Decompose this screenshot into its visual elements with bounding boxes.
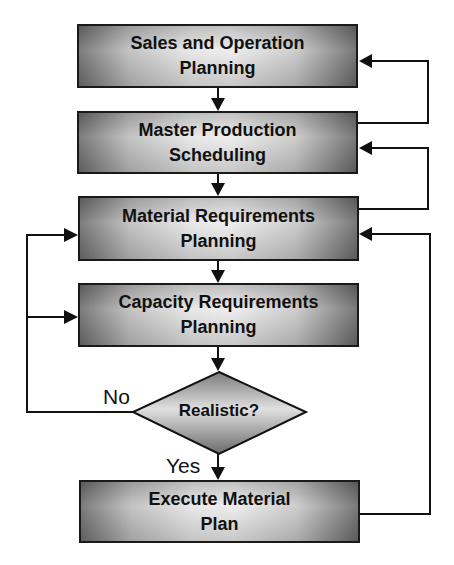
node-execute-material-plan: Execute Material Plan (79, 480, 360, 543)
edge-label-no: No (103, 385, 130, 409)
decision-label: Realistic? (163, 401, 275, 421)
node-label: Master Production Scheduling (138, 118, 296, 168)
node-label: Sales and Operation Planning (130, 31, 304, 81)
node-label: Capacity Requirements Planning (118, 290, 318, 340)
node-master-production-scheduling: Master Production Scheduling (77, 111, 358, 174)
node-label: Material Requirements Planning (122, 204, 315, 254)
node-capacity-requirements-planning: Capacity Requirements Planning (78, 283, 359, 347)
node-material-requirements-planning: Material Requirements Planning (78, 196, 359, 261)
node-label: Execute Material Plan (148, 487, 290, 537)
node-sales-operation-planning: Sales and Operation Planning (77, 24, 358, 88)
edge-label-yes: Yes (166, 454, 200, 478)
